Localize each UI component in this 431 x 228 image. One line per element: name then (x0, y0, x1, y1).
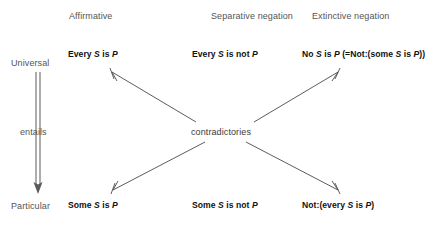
proposition-particular-affirmative: Some S is P (68, 201, 118, 210)
square-of-opposition-diagram: Affirmative Separative negation Extincti… (0, 0, 431, 228)
column-header-affirmative: Affirmative (69, 12, 112, 21)
diagram-arrows-layer (0, 0, 431, 228)
column-header-separative-negation: Separative negation (211, 12, 293, 21)
row-label-particular: Particular (11, 202, 50, 211)
proposition-particular-separative-negation: Some S is not P (192, 201, 258, 210)
column-header-extinctive-negation: Extinctive negation (312, 12, 389, 21)
contradictory-line-upper-right (254, 68, 340, 122)
row-label-universal: Universal (11, 59, 49, 68)
proposition-universal-extinctive-negation: No S is P (=Not:(some S is P)) (302, 50, 425, 59)
proposition-particular-extinctive-negation: Not:(every S is P) (302, 201, 374, 210)
contradictories-label: contradictories (191, 128, 251, 137)
proposition-universal-affirmative: Every S is P (68, 50, 118, 59)
contradictory-line-upper-left (110, 68, 196, 122)
contradictory-line-lower-right (246, 142, 340, 194)
entails-label: entails (20, 128, 47, 137)
proposition-universal-separative-negation: Every S is not P (192, 50, 258, 59)
contradictory-line-lower-left (111, 142, 205, 194)
